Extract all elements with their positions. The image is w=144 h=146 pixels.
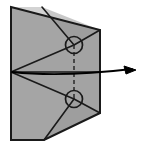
fold-direction-arrow-head [124,66,136,74]
origami-fold-diagram [0,0,144,146]
diagram-canvas [0,0,144,146]
